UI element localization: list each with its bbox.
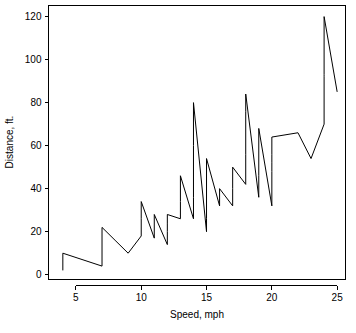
x-axis: 510152025 — [73, 286, 343, 303]
plot-frame — [49, 6, 346, 280]
y-axis: 020406080100120 — [25, 11, 49, 280]
x-tick-label: 25 — [332, 292, 344, 303]
y-axis-title: Distance, ft. — [4, 116, 15, 169]
x-axis-title: Speed, mph — [170, 309, 224, 320]
y-tick-label: 120 — [25, 11, 42, 22]
y-tick-label: 80 — [30, 97, 42, 108]
y-tick-label: 40 — [30, 183, 42, 194]
y-tick-label: 100 — [25, 54, 42, 65]
x-tick-label: 5 — [73, 292, 79, 303]
x-tick-label: 20 — [266, 292, 278, 303]
x-tick-labels: 510152025 — [73, 292, 343, 303]
chart-figure: 020406080100120 510152025 Speed, mph Dis… — [0, 0, 356, 333]
x-tick-label: 15 — [201, 292, 213, 303]
y-tick-labels: 020406080100120 — [25, 11, 42, 280]
data-series-line — [63, 17, 337, 271]
x-tick-label: 10 — [136, 292, 148, 303]
y-tick-label: 0 — [36, 269, 42, 280]
line-chart-canvas: 020406080100120 510152025 Speed, mph Dis… — [0, 0, 356, 333]
y-tick-label: 20 — [30, 226, 42, 237]
x-axis-line — [76, 286, 337, 290]
y-axis-line — [45, 17, 49, 275]
y-tick-label: 60 — [30, 140, 42, 151]
